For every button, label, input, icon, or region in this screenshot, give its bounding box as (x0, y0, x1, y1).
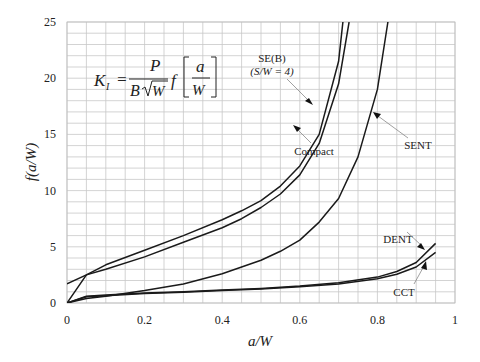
y-tick-label: 15 (44, 127, 56, 141)
x-tick-label: 0 (64, 313, 70, 327)
eq-equals: = (116, 70, 127, 89)
eq-k-sub: I (105, 81, 110, 92)
eq-w: W (152, 83, 166, 99)
eq-w2: W (192, 82, 206, 98)
arrowhead-seb-icon (305, 98, 313, 105)
x-tick-label: 0.4 (215, 313, 230, 327)
arrow-cct (414, 266, 424, 284)
chart: 00.20.40.60.810510152025 a/W f(a/W) K I … (0, 0, 480, 362)
x-axis-label: a/W (248, 333, 274, 349)
arrow-seb (287, 79, 310, 102)
eq-b: B (130, 82, 140, 99)
y-tick-label: 25 (44, 15, 56, 29)
arrowhead-sent-icon (373, 112, 381, 119)
annotations: SE(B) (S/W = 4) Compact SENT DENT CCT (250, 52, 432, 298)
series-cct (67, 252, 436, 303)
label-compact: Compact (294, 145, 334, 157)
label-cct: CCT (393, 286, 415, 298)
y-tick-label: 0 (50, 296, 56, 310)
right-bracket-icon (211, 57, 216, 97)
eq-a: a (196, 57, 205, 76)
y-tick-label: 20 (44, 71, 56, 85)
label-sent: SENT (404, 139, 432, 151)
y-tick-label: 10 (44, 184, 56, 198)
x-tick-label: 0.8 (370, 313, 385, 327)
eq-k: K (93, 71, 107, 90)
x-tick-label: 0.6 (292, 313, 307, 327)
label-dent: DENT (383, 233, 413, 245)
x-tick-label: 1 (452, 313, 458, 327)
x-tick-label: 0.2 (137, 313, 152, 327)
label-seb-sub: (S/W = 4) (250, 65, 294, 78)
arrow-compact (297, 129, 311, 143)
label-seb: SE(B) (258, 52, 286, 65)
eq-f: f (171, 71, 178, 90)
eq-p: P (149, 56, 160, 75)
left-bracket-icon (184, 57, 189, 97)
y-tick-label: 5 (50, 240, 56, 254)
equation: K I = P B W f a W (93, 56, 216, 99)
y-axis-label: f(a/W) (23, 143, 40, 181)
series-compact (67, 22, 349, 303)
